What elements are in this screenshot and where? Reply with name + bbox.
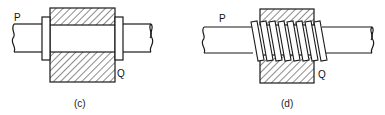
caption-d: (d): [281, 98, 293, 109]
label-q-d: Q: [318, 69, 326, 80]
shaft-c: [12, 24, 153, 52]
caption-c: (c): [74, 98, 86, 109]
label-p-c: P: [14, 12, 21, 23]
collar-right-c: [115, 17, 123, 60]
block-c: [50, 8, 115, 82]
figure-d: P Q (d): [202, 9, 374, 109]
label-q-c: Q: [117, 68, 125, 79]
screw-thread-d: [251, 21, 327, 61]
collar-left-c: [42, 17, 50, 60]
label-p-d: P: [219, 13, 226, 24]
diagram-canvas: P Q (c) P: [0, 0, 385, 115]
figure-c: P Q (c): [12, 8, 153, 109]
